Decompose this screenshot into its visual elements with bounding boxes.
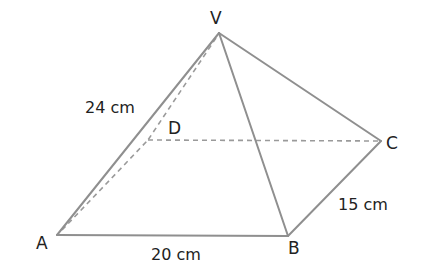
- pyramid-svg: V A B C D 24 cm 20 cm 15 cm: [0, 0, 421, 271]
- hidden-edge-AD: [62, 140, 148, 230]
- measure-BC: 15 cm: [338, 195, 388, 214]
- edge-VA: [57, 33, 219, 235]
- vertex-label-B: B: [288, 238, 300, 258]
- hidden-edge-VD: [148, 38, 216, 140]
- edge-VB: [219, 33, 288, 236]
- vertex-label-V: V: [210, 8, 222, 28]
- hidden-edge-DC: [148, 140, 381, 141]
- vertex-label-A: A: [36, 233, 48, 253]
- measure-AB: 20 cm: [151, 245, 201, 264]
- pyramid-diagram: V A B C D 24 cm 20 cm 15 cm: [0, 0, 421, 271]
- edge-AB: [57, 235, 288, 236]
- vertex-label-C: C: [386, 133, 398, 153]
- measure-VA: 24 cm: [85, 98, 135, 117]
- edge-BC: [288, 141, 381, 236]
- vertex-label-D: D: [168, 118, 181, 138]
- edge-VC: [219, 33, 381, 141]
